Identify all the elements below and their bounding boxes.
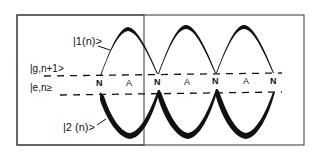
level-g-label: |g,n+1> (30, 63, 64, 74)
marker-node: N (270, 76, 277, 86)
lower-branch-curve (100, 89, 275, 139)
marker-node: N (212, 76, 219, 86)
energy-level-diagram: |1(n)> |2 (n)> |g,n+1> |e,n≥ N A N A N A… (0, 0, 317, 162)
level-e-label: |e,n≥ (30, 82, 52, 93)
marker-node: N (154, 77, 161, 87)
marker-antinode: A (243, 76, 249, 86)
lower-label-pointer (97, 119, 106, 125)
upper-branch-curve (100, 25, 274, 76)
marker-node: N (96, 78, 103, 88)
marker-antinode: A (184, 77, 190, 87)
state-lower-label: |2 (n)> (63, 121, 95, 133)
marker-antinode: A (126, 78, 132, 88)
state-upper-label: |1(n)> (73, 35, 102, 47)
level-e-dashed-line (60, 92, 282, 95)
